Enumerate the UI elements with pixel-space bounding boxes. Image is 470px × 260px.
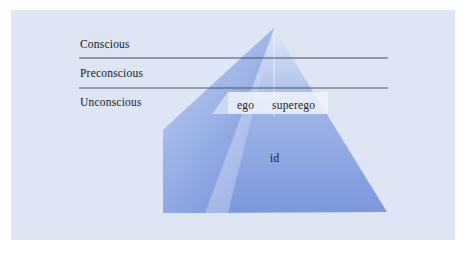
figure-root: Conscious Preconscious Unconscious ego s… (0, 0, 470, 260)
structure-label-superego: superego (272, 99, 315, 111)
pyramid-diagram (0, 0, 470, 260)
level-label-conscious: Conscious (80, 38, 130, 50)
structure-label-id: id (270, 152, 279, 164)
level-label-preconscious: Preconscious (80, 67, 143, 79)
level-label-unconscious: Unconscious (80, 96, 142, 108)
structure-label-ego: ego (237, 99, 254, 111)
